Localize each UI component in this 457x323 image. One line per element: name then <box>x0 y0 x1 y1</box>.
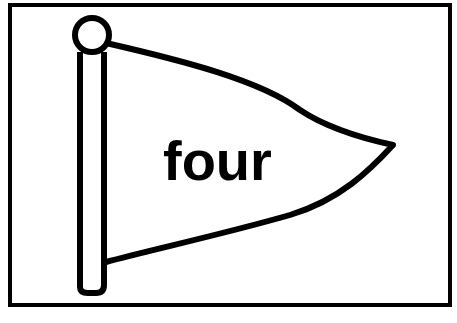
flag-word: four <box>163 129 272 193</box>
